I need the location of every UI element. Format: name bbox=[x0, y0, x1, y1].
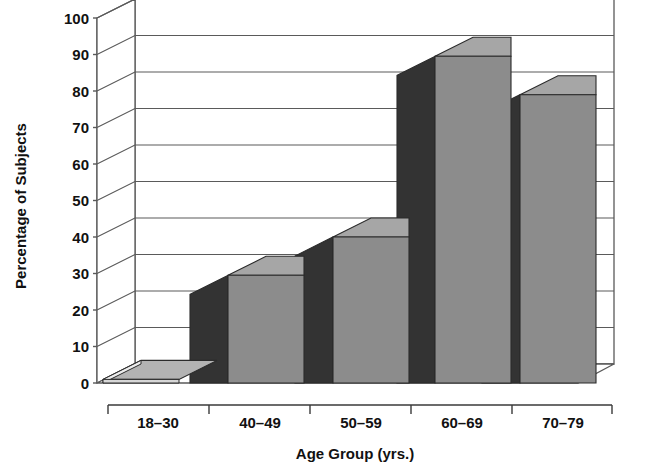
bar-front-face bbox=[228, 275, 304, 383]
y-tick-label: 60 bbox=[72, 156, 89, 173]
category-label-18-30: 18–30 bbox=[137, 414, 179, 431]
y-tick-label: 0 bbox=[81, 375, 89, 392]
category-label-60-69: 60–69 bbox=[441, 414, 483, 431]
y-tick-label: 80 bbox=[72, 83, 89, 100]
bar-60-69 bbox=[397, 37, 511, 383]
bar-front-face bbox=[520, 95, 596, 383]
y-tick-label: 20 bbox=[72, 302, 89, 319]
y-tick-label: 10 bbox=[72, 338, 89, 355]
y-tick-label: 70 bbox=[72, 119, 89, 136]
bar-front-face bbox=[333, 237, 409, 383]
bar-chart-3d: Percentage of Subjects 100 90 80 70 60 5… bbox=[0, 0, 650, 472]
y-tick-label: 30 bbox=[72, 265, 89, 282]
y-tick-label: 90 bbox=[72, 46, 89, 63]
category-label-70-79: 70–79 bbox=[542, 414, 584, 431]
chart-figure: Percentage of Subjects 100 90 80 70 60 5… bbox=[0, 0, 650, 472]
y-tick-label: 40 bbox=[72, 229, 89, 246]
y-tick-label: 100 bbox=[64, 10, 89, 27]
bar-front-face bbox=[435, 56, 511, 383]
bar-front-face bbox=[103, 379, 179, 383]
category-label-50-59: 50–59 bbox=[340, 414, 382, 431]
y-axis-title: Percentage of Subjects bbox=[12, 123, 29, 289]
y-tick-label: 50 bbox=[72, 192, 89, 209]
category-label-40-49: 40–49 bbox=[239, 414, 281, 431]
x-axis-title: Age Group (yrs.) bbox=[296, 445, 414, 462]
plot-area-3d bbox=[97, 0, 614, 383]
